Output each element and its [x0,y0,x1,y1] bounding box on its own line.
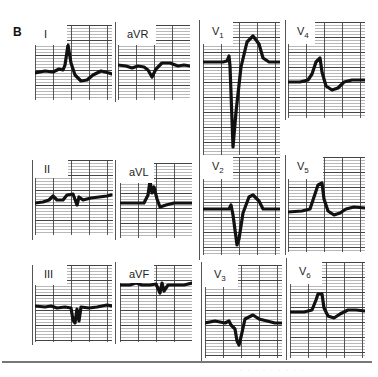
lead-label: V2 [203,157,233,179]
panel-separator [285,155,286,255]
ecg-lead-ii: II [35,160,113,235]
lead-label: I [35,25,67,45]
lead-label: aVL [120,163,154,183]
panel-separator [199,20,200,160]
panel-separator [115,22,116,102]
lead-label: V3 [205,265,238,287]
ecg-lead-avf: aVF [120,265,192,342]
lead-label: V6 [290,262,322,284]
panel-separator [201,262,202,362]
ecg-lead-avl: aVL [120,163,192,238]
panel-separator [285,20,286,120]
ecg-lead-avr: aVR [118,25,190,100]
panel-separator [115,262,116,344]
panel-separator [286,258,287,360]
panel-separator [199,155,200,260]
figure-panel-label: B [13,25,22,39]
ecg-lead-v5: V5 [288,157,365,252]
caption-fragment: · · · · · · · · · [240,367,305,373]
panel-separator [32,265,33,345]
ecg-lead-v4: V4 [288,22,365,118]
ecg-lead-iii: III [35,265,112,342]
lead-label: V5 [288,157,323,179]
ecg-lead-i: I [35,25,112,100]
panel-separator [32,160,33,240]
lead-label: III [35,265,67,285]
ecg-lead-v6: V6 [290,262,365,358]
ecg-lead-v2: V2 [203,157,280,255]
lead-label: V1 [203,22,233,44]
bottom-rule [2,361,372,363]
ecg-lead-v1: V1 [203,22,280,155]
lead-label: aVR [118,25,156,45]
lead-label: aVF [120,265,154,283]
ecg-lead-v3: V3 [205,265,282,358]
lead-label: II [35,160,68,178]
panel-separator [115,160,116,240]
lead-label: V4 [288,22,315,44]
